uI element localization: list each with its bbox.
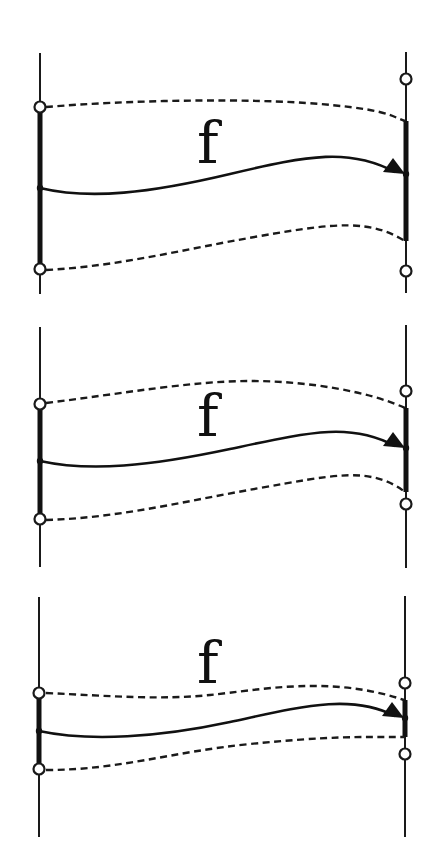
source-point-dot [37, 185, 43, 191]
source-point-dot [37, 458, 43, 464]
left-open-endpoint-bottom [34, 764, 45, 775]
image-point-dot [403, 445, 409, 451]
right-open-endpoint-top [401, 386, 412, 397]
left-open-endpoint-top [35, 399, 46, 410]
source-point-dot [36, 728, 42, 734]
right-open-endpoint-bottom [401, 266, 412, 277]
right-open-endpoint-top [401, 74, 412, 85]
interval-map-diagram: fff [0, 0, 443, 865]
right-open-endpoint-top [400, 678, 411, 689]
left-open-endpoint-top [34, 688, 45, 699]
map-label-f: f [197, 382, 222, 450]
left-open-endpoint-bottom [35, 264, 46, 275]
map-label-f: f [197, 629, 222, 697]
left-open-endpoint-bottom [35, 514, 46, 525]
left-open-endpoint-top [35, 102, 46, 113]
right-open-endpoint-bottom [400, 749, 411, 760]
right-open-endpoint-bottom [401, 499, 412, 510]
map-label-f: f [197, 109, 222, 177]
image-point-dot [403, 171, 409, 177]
image-point-dot [402, 715, 408, 721]
